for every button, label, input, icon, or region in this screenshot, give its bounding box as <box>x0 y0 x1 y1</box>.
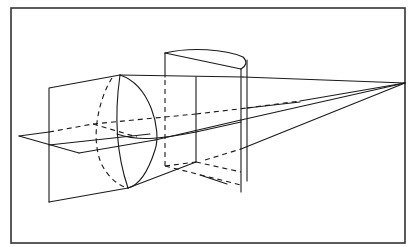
diagram-canvas <box>0 0 415 247</box>
projection-line-top <box>243 77 405 83</box>
horizontal-plane <box>19 108 247 153</box>
perspective-diagram <box>0 0 415 247</box>
left-vertical-plane <box>49 75 128 202</box>
rear-cylinder-segment <box>128 50 247 192</box>
front-ellipse <box>96 75 157 188</box>
projection-lines <box>196 83 405 160</box>
figure-frame <box>11 8 405 243</box>
top-edge-line <box>120 75 243 77</box>
